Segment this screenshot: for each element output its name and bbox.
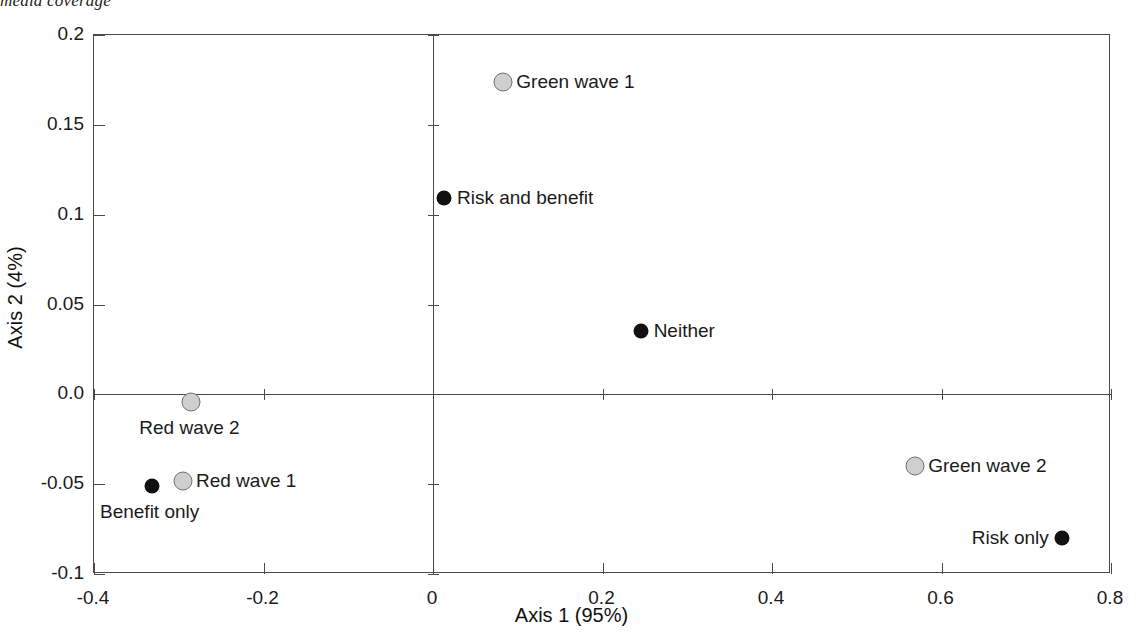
figure-caption: media coverage <box>0 0 111 11</box>
data-point-label: Red wave 2 <box>139 417 239 439</box>
y-tick-mark <box>94 125 105 126</box>
hollow-circle-marker-icon <box>906 457 925 476</box>
y-tick-mark-origin <box>428 215 439 216</box>
x-tick-mark-bottom <box>264 563 265 574</box>
y-tick-mark <box>94 394 105 395</box>
x-tick-mark <box>264 389 265 400</box>
y-tick-mark <box>94 35 105 36</box>
filled-circle-marker-icon <box>633 324 648 339</box>
x-tick-mark-bottom <box>942 563 943 574</box>
y-tick-mark-origin <box>428 305 439 306</box>
hollow-circle-marker-icon <box>182 392 201 411</box>
y-tick-mark <box>94 305 105 306</box>
filled-circle-marker-icon <box>437 191 452 206</box>
data-point-label: Risk only <box>972 527 1049 549</box>
y-tick-mark-origin <box>428 574 439 575</box>
y-tick-label: -0.1 <box>0 562 84 584</box>
y-axis-label: Axis 2 (4%) <box>4 98 27 498</box>
x-tick-mark-bottom <box>94 563 95 574</box>
x-axis-label: Axis 1 (95%) <box>0 604 1143 627</box>
y-tick-mark <box>94 574 105 575</box>
hollow-circle-marker-icon <box>173 471 192 490</box>
data-point-label: Green wave 1 <box>516 71 634 93</box>
x-tick-mark <box>942 389 943 400</box>
x-tick-mark <box>433 389 434 400</box>
x-tick-mark-bottom <box>772 563 773 574</box>
plot-area: Green wave 1Risk and benefitNeitherRed w… <box>93 34 1110 573</box>
y-tick-mark-origin <box>428 35 439 36</box>
x-tick-mark <box>772 389 773 400</box>
hollow-circle-marker-icon <box>494 72 513 91</box>
filled-circle-marker-icon <box>1054 531 1069 546</box>
x-tick-mark-bottom <box>433 563 434 574</box>
x-tick-mark <box>1111 389 1112 400</box>
y-tick-mark-origin <box>428 484 439 485</box>
x-tick-mark-bottom <box>603 563 604 574</box>
data-point-label: Risk and benefit <box>457 187 593 209</box>
data-point-label: Benefit only <box>100 501 199 523</box>
data-point-label: Green wave 2 <box>928 455 1046 477</box>
x-tick-mark-bottom <box>1111 563 1112 574</box>
data-point-label: Red wave 1 <box>196 470 296 492</box>
y-tick-label: 0.2 <box>0 23 84 45</box>
x-tick-mark <box>603 389 604 400</box>
y-tick-mark <box>94 484 105 485</box>
y-tick-mark <box>94 215 105 216</box>
y-tick-mark-origin <box>428 125 439 126</box>
data-point-label: Neither <box>654 320 715 342</box>
filled-circle-marker-icon <box>144 478 159 493</box>
correspondence-analysis-figure: media coverage Green wave 1Risk and bene… <box>0 0 1143 636</box>
